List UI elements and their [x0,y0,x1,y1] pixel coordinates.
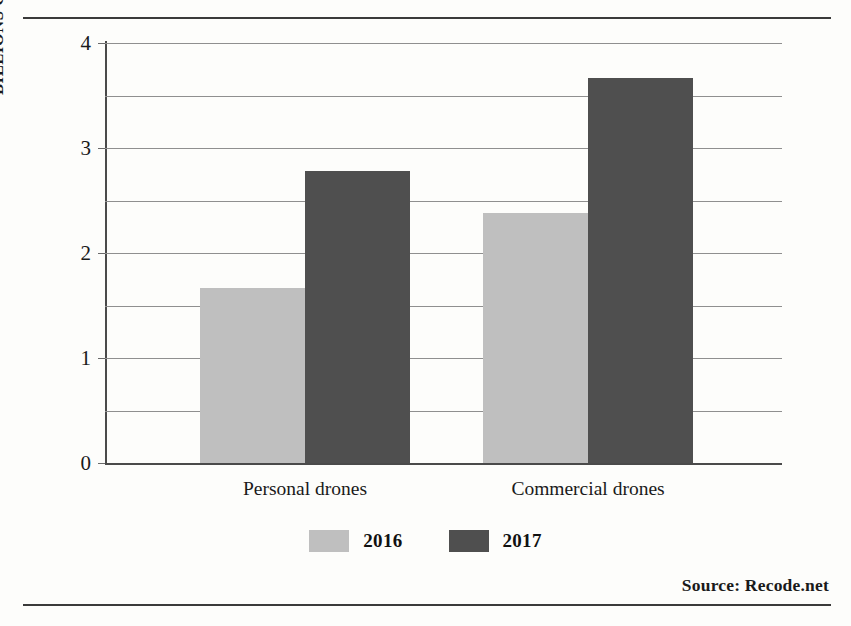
bar-personal-drones-2016 [200,288,305,463]
legend-label: 2016 [363,530,402,552]
category-label: Personal drones [155,478,455,500]
category-label: Commercial drones [438,478,738,500]
y-tick-mark [98,253,105,254]
y-tick-label: 4 [81,33,92,54]
plot-area [105,43,782,463]
chart-legend: 20162017 [0,530,851,552]
top-rule [23,17,831,19]
x-axis-line [105,463,782,465]
source-note: Source: Recode.net [682,575,829,596]
bar-commercial-drones-2016 [483,213,588,463]
legend-swatch-icon [309,530,349,552]
y-tick-mark [98,463,105,464]
legend-item-2017: 2017 [449,530,542,552]
gridline [105,43,782,44]
y-tick-label: 1 [81,348,92,369]
bar-personal-drones-2017 [305,171,410,463]
y-tick-mark [98,43,105,44]
legend-item-2016: 2016 [309,530,402,552]
y-tick-label: 2 [81,243,92,264]
y-axis-title: BILLIONS OF DOLLARS [0,0,8,95]
bottom-rule [23,604,831,606]
legend-label: 2017 [503,530,542,552]
y-tick-label: 0 [81,453,92,474]
y-tick-mark [98,358,105,359]
legend-swatch-icon [449,530,489,552]
bar-commercial-drones-2017 [588,78,693,463]
chart-figure: BILLIONS OF DOLLARS 01234 Personal drone… [0,0,851,626]
y-tick-mark [98,148,105,149]
y-tick-label: 3 [81,138,92,159]
